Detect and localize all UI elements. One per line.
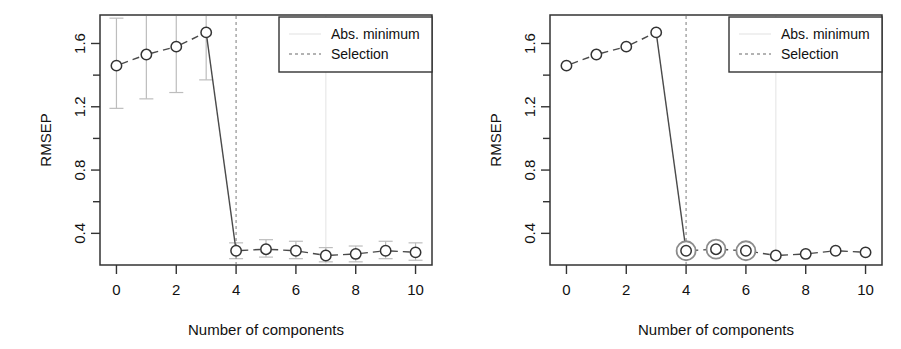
series-segment xyxy=(271,249,291,250)
data-point[interactable] xyxy=(111,60,121,70)
legend-label-1: Abs. minimum xyxy=(781,26,870,42)
rmsep-plot-left: 0246810Number of components0.40.81.21.6R… xyxy=(0,0,450,349)
y-tick-label: 0.8 xyxy=(72,160,89,181)
data-point[interactable] xyxy=(351,249,361,259)
x-tick-label: 0 xyxy=(112,281,120,298)
panel-right: 0246810Number of components0.40.81.21.6R… xyxy=(450,0,900,349)
x-tick-label: 2 xyxy=(172,281,180,298)
y-tick-label: 1.2 xyxy=(522,96,539,117)
y-axis-title: RMSEP xyxy=(487,113,504,166)
data-point[interactable] xyxy=(621,41,631,51)
series-segment xyxy=(811,251,831,253)
series-segment xyxy=(181,35,202,45)
x-tick-label: 4 xyxy=(232,281,240,298)
figure-root: 0246810Number of components0.40.81.21.6R… xyxy=(0,0,901,349)
data-point[interactable] xyxy=(141,49,151,59)
series-segment xyxy=(391,251,411,252)
legend-label-2: Selection xyxy=(331,46,389,62)
series-segment xyxy=(361,251,381,253)
rmsep-plot-right: 0246810Number of components0.40.81.21.6R… xyxy=(450,0,901,349)
y-tick-label: 0.8 xyxy=(522,160,539,181)
x-tick-label: 4 xyxy=(682,281,690,298)
y-axis: 0.40.81.21.6RMSEP xyxy=(487,15,551,244)
data-point[interactable] xyxy=(830,246,840,256)
x-tick-label: 8 xyxy=(802,281,810,298)
data-point[interactable] xyxy=(321,250,331,260)
panel-left: 0246810Number of components0.40.81.21.6R… xyxy=(0,0,450,349)
x-axis-title: Number of components xyxy=(188,321,344,338)
data-point[interactable] xyxy=(380,246,390,256)
y-tick-label: 0.4 xyxy=(72,223,89,244)
series-segment xyxy=(657,38,685,246)
x-axis-title: Number of components xyxy=(638,321,794,338)
data-point[interactable] xyxy=(651,27,661,37)
legend: Abs. minimumSelection xyxy=(279,17,432,72)
series-segment xyxy=(151,48,171,53)
y-tick-label: 0.4 xyxy=(522,223,539,244)
x-tick-label: 10 xyxy=(857,281,874,298)
series-segment xyxy=(571,56,591,63)
series-segment xyxy=(241,249,261,250)
series-segment xyxy=(207,38,235,246)
x-tick-label: 0 xyxy=(562,281,570,298)
data-point[interactable] xyxy=(171,41,181,51)
legend-label-1: Abs. minimum xyxy=(331,26,420,42)
series-segment xyxy=(301,252,321,255)
data-point[interactable] xyxy=(711,244,721,254)
x-axis: 0246810Number of components xyxy=(112,265,424,338)
x-tick-label: 10 xyxy=(407,281,424,298)
data-point[interactable] xyxy=(231,246,241,256)
series-segment xyxy=(121,56,141,63)
data-point[interactable] xyxy=(561,60,571,70)
legend-label-2: Selection xyxy=(781,46,839,62)
series-segment xyxy=(331,254,351,255)
series-segment xyxy=(781,254,801,255)
y-axis: 0.40.81.21.6RMSEP xyxy=(37,15,101,244)
x-tick-label: 6 xyxy=(742,281,750,298)
data-point[interactable] xyxy=(801,249,811,259)
data-point[interactable] xyxy=(860,247,870,257)
data-point[interactable] xyxy=(261,244,271,254)
data-point[interactable] xyxy=(201,27,211,37)
data-point[interactable] xyxy=(681,246,691,256)
data-point[interactable] xyxy=(771,250,781,260)
x-tick-label: 6 xyxy=(292,281,300,298)
legend: Abs. minimumSelection xyxy=(729,17,882,72)
data-point[interactable] xyxy=(410,247,420,257)
x-axis: 0246810Number of components xyxy=(562,265,874,338)
y-tick-label: 1.6 xyxy=(72,33,89,54)
series-segment xyxy=(841,251,861,252)
data-point[interactable] xyxy=(291,246,301,256)
y-tick-label: 1.6 xyxy=(522,33,539,54)
series-segment xyxy=(631,35,652,45)
y-tick-label: 1.2 xyxy=(72,96,89,117)
y-axis-title: RMSEP xyxy=(37,113,54,166)
series-segment xyxy=(601,48,621,53)
x-tick-label: 2 xyxy=(622,281,630,298)
x-tick-label: 8 xyxy=(352,281,360,298)
data-point[interactable] xyxy=(741,246,751,256)
data-point[interactable] xyxy=(591,49,601,59)
